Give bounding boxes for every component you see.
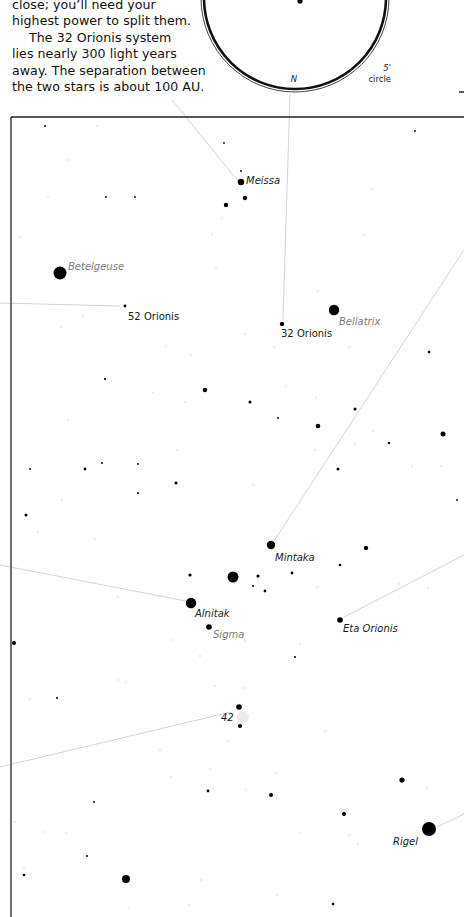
- star: [238, 724, 242, 728]
- star: [186, 598, 196, 608]
- star: [105, 196, 107, 198]
- faint-star: [215, 267, 217, 269]
- star: [243, 196, 247, 200]
- faint-star: [200, 879, 202, 881]
- star-label-betelgeuse: Betelgeuse: [68, 261, 124, 272]
- star: [342, 812, 346, 816]
- star: [203, 388, 208, 393]
- faint-star: [14, 821, 16, 823]
- star-label-52-orionis: 52 Orionis: [128, 311, 179, 322]
- faint-star: [29, 698, 31, 700]
- faint-star: [227, 740, 229, 742]
- star: [84, 468, 87, 471]
- star: [12, 641, 16, 645]
- faint-star: [152, 392, 154, 394]
- star: [124, 305, 127, 308]
- faint-star: [252, 484, 254, 486]
- star: [240, 170, 242, 172]
- star: [224, 203, 228, 207]
- faint-star: [426, 787, 428, 789]
- faint-star: [214, 685, 216, 687]
- star: [414, 130, 416, 132]
- faint-star: [61, 499, 63, 501]
- star: [337, 617, 343, 623]
- star: [122, 875, 130, 883]
- faint-star: [273, 346, 275, 348]
- star: [44, 125, 46, 127]
- star: [456, 499, 458, 501]
- star: [269, 793, 273, 797]
- star: [280, 322, 284, 326]
- star: [252, 585, 254, 587]
- star-label-meissa: Meissa: [246, 175, 280, 186]
- star: [23, 874, 26, 877]
- faint-star: [411, 465, 413, 467]
- chart-frame: [11, 117, 464, 917]
- star: [256, 574, 259, 577]
- star: [29, 468, 31, 470]
- star: [56, 697, 58, 699]
- faint-star: [170, 776, 172, 778]
- faint-star: [159, 749, 161, 751]
- faint-star: [299, 643, 301, 645]
- pointer-line: [172, 100, 238, 181]
- star: [134, 196, 136, 198]
- faint-star: [125, 681, 127, 683]
- star: [337, 468, 340, 471]
- star: [249, 401, 252, 404]
- faint-star: [245, 789, 247, 791]
- star: [228, 572, 239, 583]
- faint-star: [348, 834, 350, 836]
- faint-star: [184, 401, 186, 403]
- faint-star: [354, 443, 356, 445]
- faint-star: [199, 655, 201, 657]
- faint-star: [128, 907, 130, 909]
- faint-star: [427, 587, 429, 589]
- faint-star: [275, 772, 277, 774]
- faint-star: [315, 397, 317, 399]
- faint-star: [317, 290, 319, 292]
- faint-star: [244, 640, 246, 642]
- faint-star: [37, 531, 39, 533]
- faint-star: [47, 196, 49, 198]
- faint-star: [209, 768, 211, 770]
- faint-star: [211, 233, 213, 235]
- star: [25, 514, 28, 517]
- faint-star: [19, 236, 21, 238]
- pointer-line: [283, 94, 290, 320]
- faint-star: [348, 346, 350, 348]
- star-label-eta-orionis: Eta Orionis: [343, 623, 398, 634]
- faint-star: [172, 639, 174, 641]
- faint-star: [398, 583, 400, 585]
- star: [277, 417, 279, 419]
- faint-star: [94, 538, 96, 540]
- faint-star: [316, 586, 318, 588]
- star: [101, 462, 103, 464]
- star: [291, 572, 294, 575]
- star-label-32-orionis: 32 Orionis: [281, 328, 332, 339]
- star: [137, 492, 139, 494]
- faint-star: [276, 894, 278, 896]
- faint-star: [96, 125, 98, 127]
- star: [364, 546, 368, 550]
- star: [354, 408, 357, 411]
- star: [422, 822, 436, 836]
- faint-star: [357, 843, 359, 845]
- faint-stars: [14, 125, 442, 909]
- faint-star: [67, 159, 69, 161]
- faint-star: [363, 234, 365, 236]
- faint-star: [67, 419, 69, 421]
- faint-star: [65, 832, 67, 834]
- star-labels: MeissaBetelgeuse52 Orionis32 OrionisBell…: [68, 175, 418, 847]
- star: [54, 267, 67, 280]
- faint-star: [324, 730, 326, 732]
- star: [207, 790, 210, 793]
- star: [104, 378, 106, 380]
- star: [206, 624, 212, 630]
- star: [238, 179, 244, 185]
- star: [223, 142, 225, 144]
- star: [399, 777, 404, 782]
- star: [93, 801, 95, 803]
- star: [86, 855, 88, 857]
- star-label-mintaka: Mintaka: [275, 552, 315, 563]
